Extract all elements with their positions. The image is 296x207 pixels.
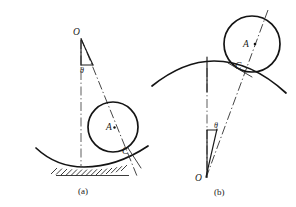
label-A-a: A — [105, 122, 112, 132]
label-O-b: O — [195, 173, 202, 183]
concave-surface-curve — [36, 146, 148, 167]
figure-root: O θ A C (a) — [0, 0, 296, 207]
triangle-slant-edge-a — [81, 39, 93, 65]
panel-a: O θ A C (a) — [36, 27, 148, 196]
panel-b: A C θ O (b) — [152, 10, 286, 197]
technical-diagram: O θ A C (a) — [0, 0, 296, 207]
center-point-a — [113, 126, 115, 128]
caption-b: (b) — [214, 187, 225, 197]
label-A-b: A — [242, 39, 249, 49]
label-C-b: C — [235, 61, 242, 71]
label-theta-a: θ — [80, 66, 84, 75]
slant-centerline-b — [206, 10, 268, 178]
disk-circle-a — [88, 102, 138, 152]
convex-surface-curve — [152, 61, 286, 93]
label-C-a: C — [122, 146, 129, 156]
label-theta-b: θ — [214, 121, 218, 130]
label-O-a: O — [73, 27, 80, 37]
caption-a: (a) — [78, 186, 88, 196]
triangle-slant-edge-b — [206, 129, 217, 177]
center-point-b — [254, 43, 257, 46]
disk-circle-b — [224, 16, 280, 72]
